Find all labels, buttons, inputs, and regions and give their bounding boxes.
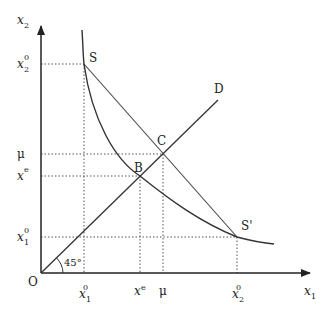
origin-label: O (28, 275, 38, 289)
svg-text:1: 1 (24, 238, 29, 247)
svg-text:x: x (134, 284, 141, 298)
point-label-S-prime: S' (241, 219, 253, 233)
svg-text:2: 2 (24, 65, 29, 74)
svg-text:0: 0 (24, 53, 29, 62)
point-label-S: S (89, 51, 97, 65)
x-axis-title: x 1 (304, 284, 316, 301)
indifference-curve (82, 30, 274, 244)
svg-text:x: x (17, 230, 24, 244)
svg-text:μ: μ (159, 284, 167, 298)
angle-label: 45° (64, 257, 82, 268)
svg-text:x: x (17, 57, 24, 71)
svg-text:x: x (17, 13, 24, 27)
point-label-D: D (214, 82, 224, 96)
svg-text:0: 0 (83, 283, 88, 292)
svg-text:1: 1 (86, 295, 91, 304)
angle-arc-45 (57, 258, 64, 273)
svg-text:1: 1 (311, 292, 316, 301)
svg-text:e: e (24, 165, 29, 174)
svg-text:x: x (304, 284, 311, 298)
economics-diagram: 45° S S' B C D O x 2 x 1 x 0 2 μ x e x 0… (0, 0, 332, 312)
svg-text:2: 2 (239, 295, 244, 304)
svg-text:0: 0 (24, 226, 29, 235)
svg-text:2: 2 (24, 21, 29, 30)
svg-text:e: e (141, 283, 146, 292)
point-label-B: B (134, 161, 143, 175)
svg-text:x: x (17, 169, 24, 183)
y-tick-x1-0: x 0 1 (17, 226, 29, 247)
y-tick-x2-0: x 0 2 (17, 53, 29, 74)
point-label-C: C (157, 134, 166, 148)
y-tick-mu: μ (17, 147, 25, 161)
svg-text:μ: μ (17, 147, 25, 161)
x-tick-x2-0: x 0 2 (232, 283, 244, 304)
x-tick-x1-0: x 0 1 (79, 283, 91, 304)
x-tick-mu: μ (159, 284, 167, 298)
y-tick-xe: x e (17, 165, 29, 183)
x-tick-xe: x e (134, 283, 146, 298)
svg-text:0: 0 (236, 283, 241, 292)
line-45-degree-OD (41, 100, 218, 273)
y-axis-title: x 2 (17, 13, 29, 30)
